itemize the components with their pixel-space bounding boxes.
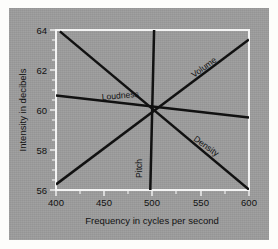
series-label-loudness: Loudness: [101, 89, 139, 102]
figure-panel: 64 62 60 58 56 400 450 500 550 600 Frequ…: [9, 8, 269, 240]
series-label-pitch: Pitch: [134, 159, 144, 178]
x-tick-label-450: 450: [96, 197, 112, 208]
sensory-attributes-line-chart: 64 62 60 58 56 400 450 500 550 600 Frequ…: [9, 8, 269, 240]
x-axis-title: Frequency in cycles per second: [85, 215, 219, 226]
x-tick-label-550: 550: [193, 197, 209, 208]
y-tick-label-62: 62: [36, 65, 47, 76]
x-tick-label-500: 500: [144, 197, 160, 208]
x-tick-label-600: 600: [241, 197, 257, 208]
y-axis-title: Intensity in decibels: [17, 68, 28, 151]
y-tick-label-64: 64: [36, 25, 47, 36]
x-tick-label-400: 400: [48, 197, 64, 208]
y-tick-label-56: 56: [36, 185, 47, 196]
data-lines-group: [56, 30, 249, 190]
y-tick-label-60: 60: [36, 105, 47, 116]
y-tick-label-58: 58: [36, 145, 47, 156]
